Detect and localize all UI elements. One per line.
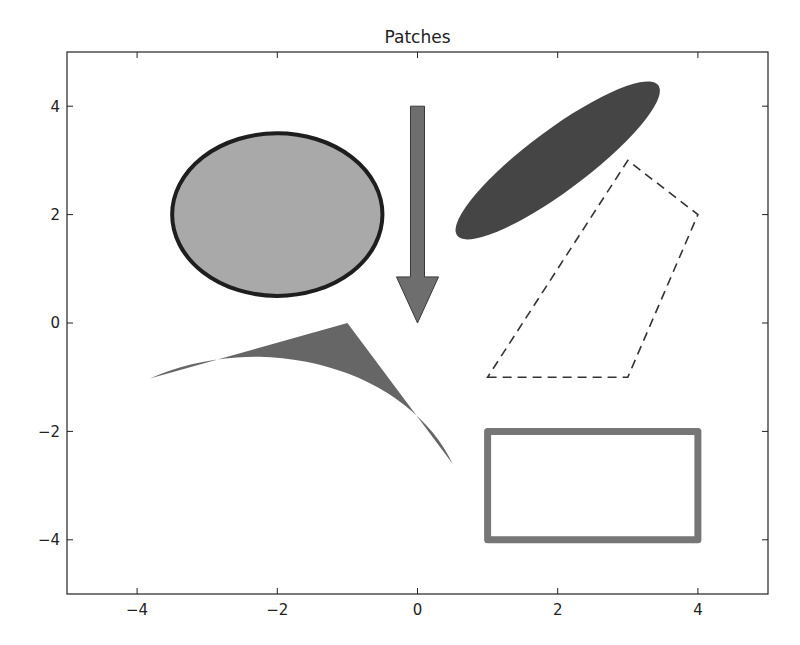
ellipse-patch: [434, 65, 682, 257]
x-tick-label: −2: [266, 601, 288, 619]
circle-patch: [172, 133, 382, 296]
plot-area: −4 −2 0 2 4 −4 −2 0 2 4: [38, 52, 768, 619]
x-tick-label: 2: [553, 601, 563, 619]
y-tick-label: −4: [38, 531, 60, 549]
arrow-patch: [396, 106, 438, 323]
wedge-patch: [150, 323, 453, 464]
x-tick-label: −4: [126, 601, 148, 619]
x-tick-label: 0: [413, 601, 423, 619]
y-tick-label: 4: [50, 98, 60, 116]
y-tick-label: 2: [50, 206, 60, 224]
x-tick-label: 4: [693, 601, 703, 619]
y-tick-label: −2: [38, 423, 60, 441]
chart-title: Patches: [384, 27, 450, 47]
y-tick-label: 0: [50, 314, 60, 332]
rectangle-patch: [488, 431, 698, 539]
patches-figure: Patches: [0, 0, 800, 645]
